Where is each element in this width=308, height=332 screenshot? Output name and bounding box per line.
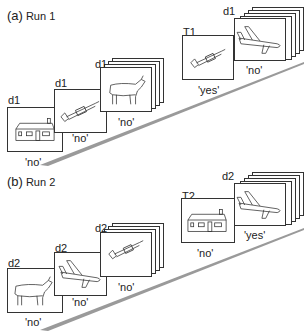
response-label: 'no' [25, 316, 41, 328]
response-label: 'no' [246, 64, 262, 76]
airplane-icon [235, 184, 285, 225]
response-label: 'yes' [244, 229, 265, 241]
house-icon [182, 199, 234, 242]
target-card-trumpet [182, 35, 234, 80]
airplane-icon [235, 19, 285, 60]
frame-tag: d1 [55, 77, 67, 89]
stimulus-card-airplane-front [234, 18, 286, 61]
frame-tag: d2 [222, 170, 234, 182]
response-label: 'no' [118, 281, 134, 293]
trumpet-icon [183, 36, 233, 79]
response-label: 'no' [197, 247, 213, 259]
stimulus-card-airplane-front [234, 183, 286, 226]
panel-b-title: (b)Run 2 [7, 174, 55, 189]
stimulus-card-goat [100, 67, 152, 112]
response-label: 'no' [72, 132, 88, 144]
frame-tag: d1 [8, 94, 20, 106]
response-label: 'no' [25, 156, 41, 168]
goat-icon [101, 68, 151, 111]
panel-b-run-label: Run 2 [26, 176, 55, 188]
target-card-house [181, 198, 235, 243]
frame-tag: d1 [223, 5, 235, 17]
response-label: 'no' [118, 116, 134, 128]
response-label: 'no' [72, 296, 88, 308]
trumpet-icon [101, 233, 151, 276]
airplane-icon [55, 253, 106, 295]
trumpet-icon [55, 90, 106, 132]
stimulus-card-trumpet [100, 232, 152, 277]
response-label: 'yes' [198, 84, 219, 96]
panel-b-letter: (b) [7, 174, 23, 189]
